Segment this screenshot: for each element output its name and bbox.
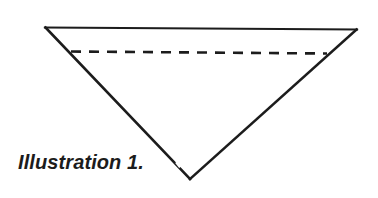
illustration-figure: Illustration 1.	[0, 0, 378, 198]
figure-caption: Illustration 1.	[18, 152, 144, 173]
